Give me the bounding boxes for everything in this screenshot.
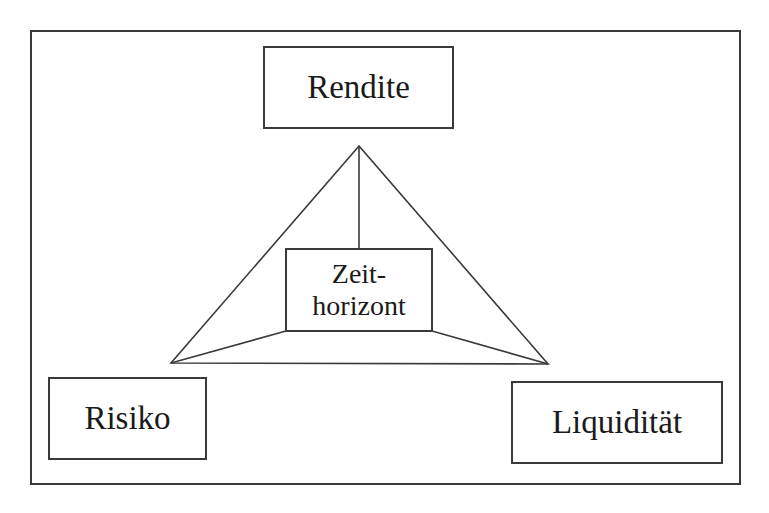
connector-right xyxy=(432,331,548,364)
node-rendite-label: Rendite xyxy=(307,69,410,105)
connector-left xyxy=(171,331,286,363)
node-zeithorizont-line2: horizont xyxy=(312,290,405,322)
node-risiko-label: Risiko xyxy=(84,400,170,436)
node-liquiditaet: Liquidität xyxy=(511,381,723,464)
node-zeithorizont: Zeit- horizont xyxy=(285,248,433,332)
node-risiko: Risiko xyxy=(48,377,207,460)
node-rendite: Rendite xyxy=(263,46,454,129)
node-zeithorizont-line1: Zeit- xyxy=(332,258,386,290)
node-liquiditaet-label: Liquidität xyxy=(552,404,682,440)
